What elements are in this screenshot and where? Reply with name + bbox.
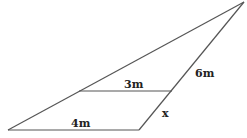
label-4m: 4m — [71, 117, 91, 130]
right-side-line — [139, 2, 244, 130]
triangle-figure: 3m 4m 6m x — [0, 0, 247, 138]
label-x: x — [162, 107, 169, 120]
left-side-line — [8, 2, 244, 130]
label-3m: 3m — [124, 78, 144, 91]
label-6m: 6m — [195, 67, 215, 80]
diagram-canvas: 3m 4m 6m x — [0, 0, 247, 138]
